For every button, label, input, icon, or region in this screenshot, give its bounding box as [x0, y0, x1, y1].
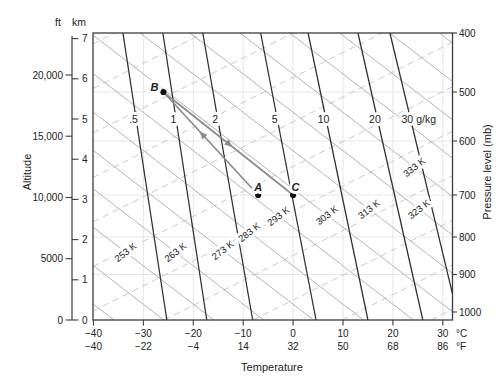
- moist-adiabat-line: [93, 33, 204, 89]
- km-tick-label: 2: [82, 234, 88, 245]
- dry-adiabat-label: 263 K: [162, 240, 189, 264]
- altitude-axis-title: Altitude: [21, 154, 33, 191]
- mixing-ratio-lines: [123, 33, 453, 320]
- temp-f-tick-label: −4: [188, 341, 200, 352]
- moist-adiabat-line: [93, 33, 382, 178]
- mixing-ratio-line: [163, 33, 207, 320]
- temp-c-tick-label: 10: [337, 328, 349, 339]
- km-tick-label: 5: [82, 114, 88, 125]
- pressure-tick-label: 800: [459, 232, 476, 243]
- adiabatic-chart-figure: .5125102030 g/kg253 K263 K273 K283 K293 …: [0, 0, 504, 389]
- pressure-tick-label: 400: [459, 28, 476, 39]
- temp-f-tick-label: 86: [437, 341, 449, 352]
- km-unit-header: km: [72, 16, 86, 28]
- point-dot-a: [255, 192, 261, 198]
- ft-tick-label: 15,000: [32, 131, 63, 142]
- temperature-axis-title: Temperature: [241, 361, 303, 373]
- temp-c-tick-label: −40: [85, 328, 102, 339]
- adiabatic-chart: .5125102030 g/kg253 K263 K273 K283 K293 …: [0, 0, 504, 389]
- point-dot-b: [160, 89, 166, 95]
- km-tick-label: 0: [82, 315, 88, 326]
- point-label-a: A: [253, 181, 262, 193]
- km-tick-label: 1: [82, 274, 88, 285]
- dry-adiabat-label: 303 K: [314, 203, 341, 227]
- point-label-b: B: [150, 81, 158, 93]
- temp-f-tick-label: 50: [337, 341, 349, 352]
- pressure-tick-label: 900: [459, 269, 476, 280]
- temp-f-tick-label: 14: [238, 341, 250, 352]
- dry-adiabat-line: [290, 33, 453, 158]
- temp-f-tick-label: −22: [135, 341, 152, 352]
- ft-unit-header: ft: [55, 16, 61, 28]
- temp-c-tick-label: 30: [437, 328, 449, 339]
- dry-adiabat-line: [340, 33, 453, 120]
- arrow-line-a-to-b: [163, 92, 258, 195]
- dry-adiabat-line: [93, 74, 413, 320]
- temp-c-tick-label: 0: [290, 328, 296, 339]
- dry-adiabat-line: [93, 35, 453, 312]
- km-tick-label: 7: [82, 33, 88, 44]
- mixing-ratio-label: 30 g/kg: [402, 113, 437, 125]
- dry-adiabat-label: 283 K: [236, 220, 263, 244]
- pressure-tick-label: 500: [459, 87, 476, 98]
- dry-adiabat-label: 313 K: [356, 197, 383, 221]
- mixing-ratio-label: 2: [212, 113, 218, 125]
- point-label-c: C: [292, 181, 301, 193]
- km-tick-label: 4: [82, 154, 88, 165]
- moist-adiabat-line: [431, 309, 453, 320]
- mixing-ratio-line: [308, 33, 368, 320]
- temp-c-tick-label: 20: [387, 328, 399, 339]
- plot-border-and-ticks: [66, 33, 458, 326]
- pressure-tick-label: 600: [459, 136, 476, 147]
- ft-tick-label: 0: [57, 315, 63, 326]
- fahrenheit-unit-label: °F: [456, 341, 466, 352]
- ft-tick-label: 20,000: [32, 70, 63, 81]
- temp-f-tick-label: −40: [85, 341, 102, 352]
- mixing-ratio-line: [123, 33, 167, 320]
- km-tick-label: 6: [82, 73, 88, 84]
- mixing-ratio-label: .5: [129, 113, 138, 125]
- temp-c-tick-label: −10: [235, 328, 252, 339]
- mixing-ratio-label: 5: [272, 113, 278, 125]
- dry-adiabat-line: [93, 227, 214, 320]
- moist-adiabat-line: [164, 176, 453, 320]
- dry-adiabat-label: 323 K: [406, 197, 433, 221]
- celsius-unit-label: °C: [456, 328, 467, 339]
- ft-tick-label: 10,000: [32, 192, 63, 203]
- mixing-ratio-label: 1: [171, 113, 177, 125]
- km-tick-label: 3: [82, 194, 88, 205]
- mixing-ratio-label: 20: [369, 113, 381, 125]
- moist-adiabat-line: [93, 33, 115, 44]
- temp-c-tick-label: −30: [135, 328, 152, 339]
- temp-f-tick-label: 32: [288, 341, 300, 352]
- dry-adiabat-line: [440, 33, 453, 43]
- mixing-ratio-label: 10: [318, 113, 330, 125]
- mixing-ratio-line: [358, 33, 423, 320]
- temp-f-tick-label: 68: [387, 341, 399, 352]
- pressure-tick-label: 1000: [459, 307, 482, 318]
- dry-adiabat-label: 253 K: [112, 240, 139, 264]
- pressure-tick-label: 700: [459, 190, 476, 201]
- dry-adiabat-label: 293 K: [265, 204, 292, 228]
- ft-tick-label: 5000: [41, 253, 64, 264]
- temp-c-tick-label: −20: [185, 328, 202, 339]
- pressure-axis-title: Pressure level (mb): [481, 124, 493, 219]
